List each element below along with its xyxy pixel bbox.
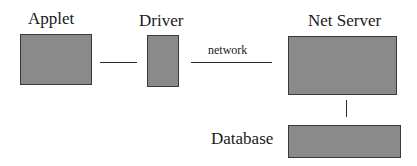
database-label: Database [211,130,273,147]
applet-label: Applet [28,10,74,27]
netserver-database-connector [346,100,347,117]
network-edge-label: network [208,44,247,56]
database-box [288,125,401,158]
net-server-label: Net Server [308,12,381,29]
net-server-box [288,36,397,95]
driver-label: Driver [139,12,183,29]
driver-netserver-connector [191,62,272,63]
driver-box [147,35,179,87]
applet-box [20,34,92,85]
applet-driver-connector [100,62,137,63]
